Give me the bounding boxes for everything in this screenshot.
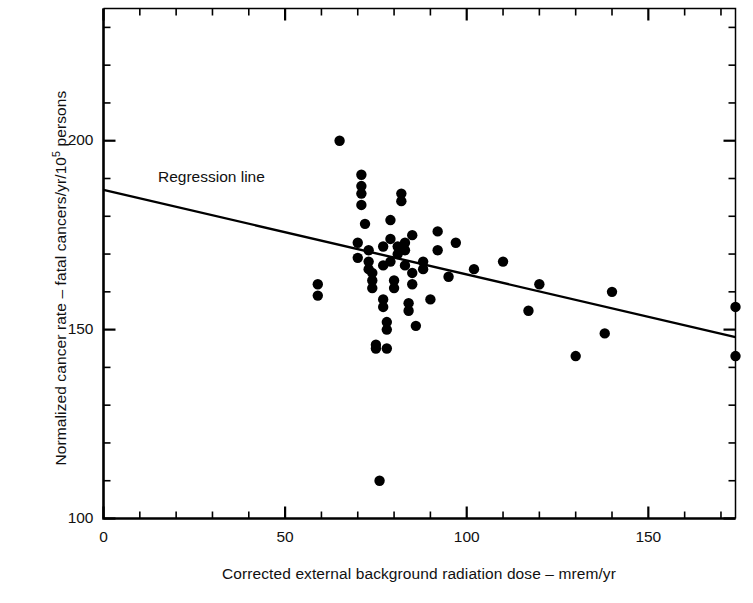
x-axis-ticks <box>104 9 721 519</box>
data-point <box>385 215 395 225</box>
data-point <box>367 283 377 293</box>
y-tick-label-150: 150 <box>28 320 94 338</box>
data-point <box>313 279 323 289</box>
data-point <box>411 321 421 331</box>
cancer-rate-vs-radiation-dose-figure: Regression line Normalized cancer rate –… <box>0 0 753 603</box>
data-point <box>378 241 388 251</box>
data-point <box>360 219 370 229</box>
y-axis-title: Normalized cancer rate – fatal cancers/y… <box>50 43 70 513</box>
data-point <box>371 343 381 353</box>
data-point <box>407 268 417 278</box>
data-point <box>469 264 479 274</box>
data-point <box>389 283 399 293</box>
data-point <box>356 170 366 180</box>
data-point <box>432 226 442 236</box>
data-point <box>451 238 461 248</box>
y-tick-label-100: 100 <box>28 509 94 527</box>
x-tick-label-150: 150 <box>618 528 678 546</box>
x-tick-label-0: 0 <box>74 528 134 546</box>
data-point <box>374 476 384 486</box>
data-point <box>400 260 410 270</box>
data-point <box>432 245 442 255</box>
data-point <box>607 287 617 297</box>
data-point <box>363 245 373 255</box>
data-point <box>407 279 417 289</box>
data-point <box>385 256 395 266</box>
data-point <box>353 238 363 248</box>
data-point <box>396 196 406 206</box>
data-point <box>403 306 413 316</box>
data-point <box>425 294 435 304</box>
data-point <box>407 230 417 240</box>
data-point <box>534 279 544 289</box>
y-axis-title-prefix: Normalized cancer rate – fatal cancers/y… <box>52 157 69 466</box>
data-point <box>313 290 323 300</box>
y-tick-label-200: 200 <box>28 131 94 149</box>
data-point <box>600 328 610 338</box>
x-tick-label-100: 100 <box>437 528 497 546</box>
data-point <box>418 264 428 274</box>
data-point <box>400 245 410 255</box>
regression-line-label: Regression line <box>158 168 265 186</box>
data-point <box>730 302 740 312</box>
data-point <box>353 253 363 263</box>
data-point <box>382 324 392 334</box>
data-points-group <box>313 136 741 486</box>
scatter-plot-canvas <box>0 0 753 603</box>
x-axis-title: Corrected external background radiation … <box>103 565 735 583</box>
x-tick-label-50: 50 <box>255 528 315 546</box>
y-axis-title-exponent: 5 <box>50 151 62 157</box>
data-point <box>356 200 366 210</box>
data-point <box>356 188 366 198</box>
y-axis-ticks <box>104 27 736 518</box>
data-point <box>378 302 388 312</box>
data-point <box>382 343 392 353</box>
data-point <box>730 351 740 361</box>
data-point <box>443 272 453 282</box>
data-point <box>385 234 395 244</box>
data-point <box>334 136 344 146</box>
data-point <box>498 256 508 266</box>
data-point <box>523 306 533 316</box>
data-point <box>570 351 580 361</box>
